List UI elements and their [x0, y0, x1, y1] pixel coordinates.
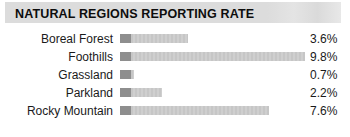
bar-track: [120, 70, 305, 79]
bar-fill: [120, 88, 162, 97]
table-row: Boreal Forest 3.6%: [0, 30, 350, 48]
bar-chart: Boreal Forest 3.6% Foothills 9.8% Grassl…: [0, 30, 350, 120]
region-label: Boreal Forest: [0, 31, 113, 47]
page-title: NATURAL REGIONS REPORTING RATE: [15, 6, 254, 22]
table-row: Grassland 0.7%: [0, 66, 350, 84]
region-label: Foothills: [0, 49, 113, 65]
region-value: 2.2%: [310, 85, 337, 101]
bar-fill: [120, 52, 305, 61]
region-value: 3.6%: [310, 31, 337, 47]
table-row: Parkland 2.2%: [0, 84, 350, 102]
bar-fill: [120, 34, 188, 43]
region-value: 9.8%: [310, 49, 337, 65]
region-value: 0.7%: [310, 67, 337, 83]
table-row: Foothills 9.8%: [0, 48, 350, 66]
bar-fill: [120, 106, 269, 115]
region-label: Grassland: [0, 67, 113, 83]
bar-track: [120, 88, 305, 97]
table-row: Rocky Mountain 7.6%: [0, 102, 350, 120]
region-label: Parkland: [0, 85, 113, 101]
bar-fill: [120, 70, 134, 79]
region-label: Rocky Mountain: [0, 103, 113, 119]
region-value: 7.6%: [310, 103, 337, 119]
bar-track: [120, 106, 305, 115]
bar-track: [120, 52, 305, 61]
title-band: NATURAL REGIONS REPORTING RATE: [5, 2, 341, 23]
bar-track: [120, 34, 305, 43]
